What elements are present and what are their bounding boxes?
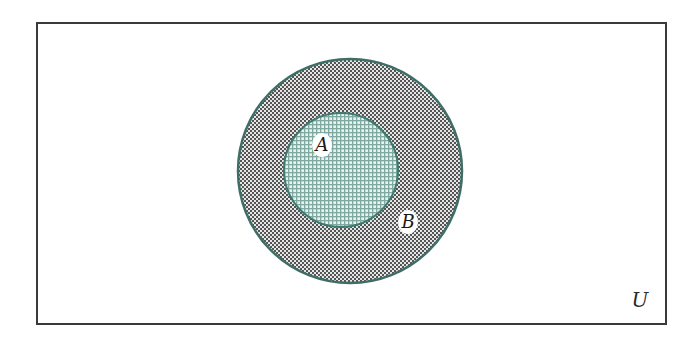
- set-a-label-group: A: [312, 133, 332, 157]
- set-a-circle: [284, 113, 398, 227]
- set-b-label-group: B: [398, 210, 418, 234]
- universe-label: U: [632, 288, 650, 312]
- venn-diagram: A B U: [0, 0, 700, 339]
- set-b-label: B: [400, 211, 414, 232]
- set-a-label: A: [314, 134, 329, 155]
